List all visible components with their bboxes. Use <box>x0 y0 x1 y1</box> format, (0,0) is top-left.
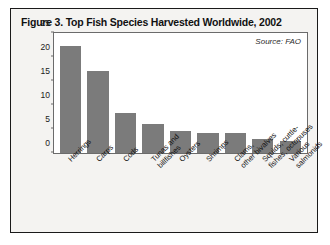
bar-slot <box>112 33 139 153</box>
bar-slot <box>222 33 249 153</box>
y-tick-label: 25 <box>28 18 50 28</box>
bar-herrings <box>60 46 81 153</box>
y-tick-label: 15 <box>28 66 50 76</box>
x-label-slot: Herrings <box>56 156 84 236</box>
x-label-slot: Tunas andbillfishes <box>139 156 167 236</box>
figure-container: Figure 3. Top Fish Species Harvested Wor… <box>10 8 318 233</box>
x-label-slot: Shrimps <box>194 156 222 236</box>
y-tick-label: 5 <box>28 114 50 124</box>
x-label-slot: Oysters <box>167 156 195 236</box>
y-tick-label: 0 <box>28 138 50 148</box>
bar-slot <box>84 33 111 153</box>
x-label-slot: Carps <box>84 156 112 236</box>
y-tick-label: 10 <box>28 90 50 100</box>
bar-slot <box>139 33 166 153</box>
bar-slot <box>57 33 84 153</box>
figure-title: Figure 3. Top Fish Species Harvested Wor… <box>21 16 311 28</box>
x-label-slot: Cods <box>111 156 139 236</box>
x-label-slot: Varioussalmonids <box>277 156 305 236</box>
bar-slot <box>194 33 221 153</box>
y-tick-label: 20 <box>28 42 50 52</box>
x-axis-labels: HerringsCarpsCodsTunas andbillfishesOyst… <box>53 156 308 236</box>
x-label-slot: Squids, cuttle-fishes, octopuses <box>250 156 278 236</box>
x-label-slot: Clams,other bivalves <box>222 156 250 236</box>
